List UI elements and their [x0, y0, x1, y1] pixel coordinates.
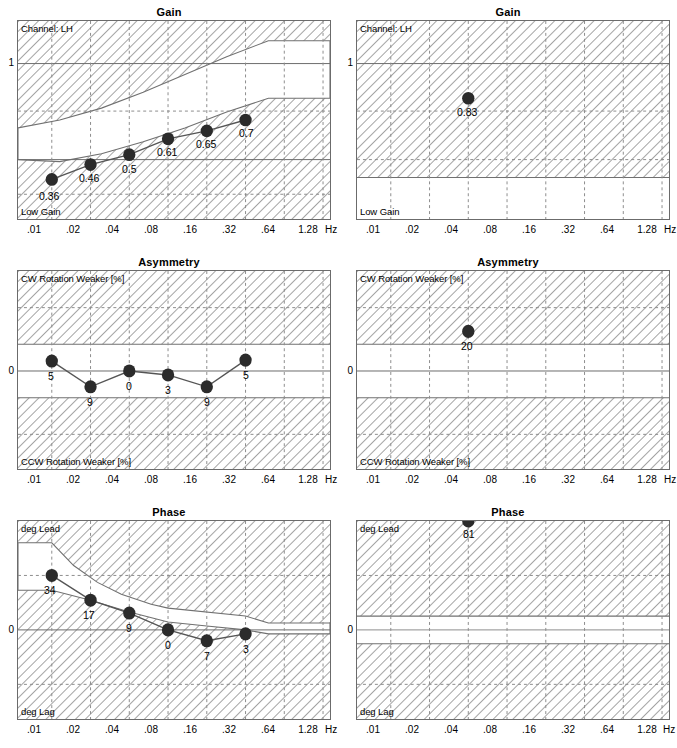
- x-axis-tick-label: .16: [516, 724, 542, 735]
- x-axis-tick-label: .64: [255, 224, 281, 235]
- point-value-label: 0.61: [157, 147, 177, 158]
- x-axis-tick-label: .32: [216, 224, 242, 235]
- x-axis-tick-label: .04: [438, 224, 464, 235]
- plot-canvas: [18, 521, 330, 719]
- point-value-label: 17: [83, 610, 95, 621]
- panel-title: Gain: [0, 6, 338, 19]
- x-axis-tick-label: .02: [60, 224, 86, 235]
- data-point: [162, 132, 174, 145]
- plot-area-phase-right[interactable]: deg Lead deg Lag 81: [356, 520, 670, 720]
- point-value-label: 0.65: [196, 139, 216, 150]
- x-axis-tick-label: .08: [138, 224, 164, 235]
- x-axis-tick-label: .64: [594, 474, 620, 485]
- data-point: [46, 355, 58, 368]
- series-line: [52, 360, 246, 387]
- x-axis-tick-label: .08: [477, 224, 503, 235]
- plot-area-phase-left[interactable]: deg Lead deg Lag 34 17 9 0 7 3: [17, 520, 331, 720]
- x-axis-tick-label: .16: [177, 474, 203, 485]
- deg-lead-label: deg Lead: [360, 523, 399, 534]
- x-axis-tick-label: .02: [399, 724, 425, 735]
- point-value-label: 34: [44, 585, 56, 596]
- x-axis-tick-label: 1.28: [291, 224, 325, 235]
- y-axis-tick-label: 0: [339, 365, 353, 376]
- y-axis-tick-label: 1: [339, 57, 353, 68]
- panel-title: Asymmetry: [339, 256, 677, 269]
- x-axis-tick-label: .02: [399, 474, 425, 485]
- point-value-label: 0.36: [39, 191, 59, 202]
- x-axis-tick-label: .08: [138, 724, 164, 735]
- x-axis-unit-label: Hz: [325, 724, 337, 735]
- data-point: [201, 634, 213, 647]
- x-axis-tick-label: .16: [516, 474, 542, 485]
- plot-area-gain-left[interactable]: Channel: LH Low Gain 0.36 0.46 0.5 0.61 …: [17, 20, 331, 220]
- plot-area-gain-right[interactable]: Channel: LH Low Gain 0.83: [356, 20, 670, 220]
- cw-rotation-label: CW Rotation Weaker [%]: [21, 273, 124, 284]
- data-point: [239, 354, 251, 367]
- point-value-label: 0: [126, 381, 132, 392]
- data-point: [201, 125, 213, 138]
- y-axis-tick-label: 0: [339, 624, 353, 635]
- deg-lag-label: deg Lag: [21, 706, 55, 717]
- ccw-rotation-label: CCW Rotation Weaker [%]: [21, 456, 131, 467]
- data-point: [84, 594, 96, 607]
- x-axis-tick-label: 1.28: [630, 474, 664, 485]
- point-value-label: 9: [126, 623, 132, 634]
- panel-phase-left: Phase: [0, 506, 338, 748]
- x-axis-tick-label: 1.28: [630, 224, 664, 235]
- point-value-label: 3: [165, 385, 171, 396]
- x-axis-tick-label: .32: [216, 474, 242, 485]
- point-value-label: 3: [243, 644, 249, 655]
- panel-asymmetry-right: Asymmetry: [339, 256, 677, 498]
- data-point: [46, 173, 58, 186]
- point-value-label: 20: [461, 341, 473, 352]
- x-axis-tick-label: 1.28: [291, 724, 325, 735]
- x-axis-tick-label: .08: [138, 474, 164, 485]
- x-axis-tick-label: .02: [399, 224, 425, 235]
- x-axis-tick-label: .08: [477, 474, 503, 485]
- plot-canvas: [357, 271, 669, 469]
- y-axis-tick-label: 1: [0, 57, 14, 68]
- x-axis-unit-label: Hz: [664, 474, 676, 485]
- x-axis-unit-label: Hz: [325, 474, 337, 485]
- x-axis-tick-label: .02: [60, 724, 86, 735]
- x-axis-tick-label: .02: [60, 474, 86, 485]
- x-axis-tick-label: .01: [360, 724, 386, 735]
- channel-label: Channel: LH: [21, 23, 73, 34]
- out-of-range-hatching: [357, 21, 669, 177]
- report-page: Gain: [0, 0, 677, 748]
- plot-area-asymmetry-right[interactable]: CW Rotation Weaker [%] CCW Rotation Weak…: [356, 270, 670, 470]
- data-point: [162, 368, 174, 381]
- plot-canvas: [18, 21, 330, 219]
- low-gain-label: Low Gain: [360, 206, 399, 217]
- x-axis-tick-label: .16: [516, 224, 542, 235]
- data-point: [201, 380, 213, 393]
- data-point: [239, 627, 251, 640]
- x-axis-tick-label: .32: [216, 724, 242, 735]
- data-point: [123, 607, 135, 620]
- x-axis-tick-label: .01: [21, 724, 47, 735]
- data-point: [46, 569, 58, 582]
- panel-phase-right: Phase: [339, 506, 677, 748]
- x-axis-tick-label: .04: [99, 474, 125, 485]
- deg-lead-label: deg Lead: [21, 523, 60, 534]
- low-gain-label: Low Gain: [21, 206, 60, 217]
- plot-area-asymmetry-left[interactable]: CW Rotation Weaker [%] CCW Rotation Weak…: [17, 270, 331, 470]
- panel-gain-right: Gain: [339, 6, 677, 248]
- x-axis-tick-label: .04: [438, 474, 464, 485]
- x-axis-unit-label: Hz: [663, 724, 675, 735]
- x-axis-tick-label: .04: [99, 724, 125, 735]
- x-axis-tick-label: .08: [477, 724, 503, 735]
- panel-title: Asymmetry: [0, 256, 338, 269]
- x-axis-tick-label: 1.28: [291, 474, 325, 485]
- plot-canvas: [357, 21, 669, 219]
- x-axis-tick-label: 1.28: [630, 724, 664, 735]
- panel-gain-left: Gain: [0, 6, 338, 248]
- plot-canvas: [357, 521, 669, 719]
- channel-label: Channel: LH: [360, 23, 412, 34]
- x-axis-tick-label: .64: [594, 724, 620, 735]
- point-value-label: 0: [165, 640, 171, 651]
- point-value-label: 7: [204, 651, 210, 662]
- cw-rotation-label: CW Rotation Weaker [%]: [360, 273, 463, 284]
- x-axis-unit-label: Hz: [325, 224, 337, 235]
- x-axis-tick-label: .32: [555, 724, 581, 735]
